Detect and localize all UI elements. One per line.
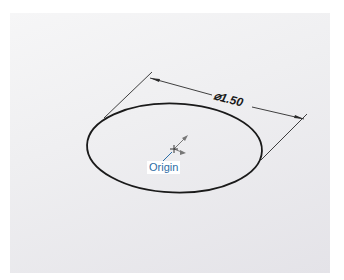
arrowhead-right-icon: [294, 115, 304, 119]
arrowhead-left-icon: [150, 78, 160, 82]
dimension-text[interactable]: ⌀1.50: [212, 89, 245, 110]
extension-line-right: [261, 114, 307, 160]
sketch-geometry: ⌀1.50: [0, 0, 344, 280]
extension-line-left: [104, 72, 152, 118]
origin-label: Origin: [147, 161, 180, 174]
origin-axes-icon: [162, 135, 188, 162]
